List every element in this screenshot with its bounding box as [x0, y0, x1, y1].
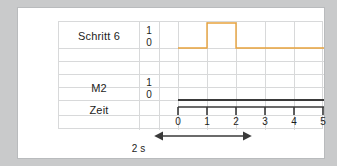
level-high-schritt-6: 1 — [139, 25, 159, 36]
level-low-m2: 0 — [139, 89, 159, 100]
level-high-m2: 1 — [139, 77, 159, 88]
dimension-annotation: 2 s — [58, 129, 323, 161]
signal-grid: Schritt 6 M2 Zeit 1 0 1 0 — [58, 21, 323, 129]
time-tick-2: 2 — [229, 116, 243, 127]
row-label-m2: M2 — [59, 82, 139, 94]
time-axis-ticks — [178, 107, 323, 115]
row-label-zeit: Zeit — [59, 104, 139, 116]
diagram-panel: Schritt 6 M2 Zeit 1 0 1 0 — [18, 8, 324, 158]
timing-diagram-screenshot: Schritt 6 M2 Zeit 1 0 1 0 — [0, 0, 337, 166]
time-tick-3: 3 — [258, 116, 272, 127]
signal-trace-schritt-6 — [178, 23, 324, 48]
time-tick-1: 1 — [200, 116, 214, 127]
row-label-schritt-6: Schritt 6 — [59, 30, 139, 42]
level-low-schritt-6: 0 — [139, 37, 159, 48]
waveform-plot: 0 1 2 3 4 5 — [159, 22, 324, 130]
dimension-label: 2 s — [132, 143, 145, 154]
dimension-label-wrap: 2 s — [58, 143, 323, 154]
time-tick-5: 5 — [316, 116, 330, 127]
time-tick-4: 4 — [287, 116, 301, 127]
time-tick-0: 0 — [171, 116, 185, 127]
